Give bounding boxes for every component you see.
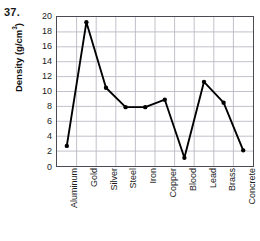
y-tick-label: 18 <box>30 26 52 35</box>
y-tick-label: 0 <box>30 162 52 171</box>
y-axis-tick-labels: 20181614121086420 <box>30 15 52 167</box>
data-point-marker <box>221 101 225 105</box>
x-tick-label: Lead <box>209 168 218 188</box>
data-point-marker <box>182 156 186 160</box>
x-tick-label: Concrete <box>248 168 257 205</box>
y-axis-title-text: Density (g/cm <box>13 30 24 92</box>
data-point-marker <box>241 148 245 152</box>
plot-area <box>56 16 254 167</box>
x-tick-label: Aluminum <box>70 168 79 208</box>
data-point-marker <box>84 20 88 24</box>
y-tick-label: 2 <box>30 147 52 156</box>
data-point-marker <box>104 86 108 90</box>
x-tick-label: Silver <box>110 168 119 191</box>
y-tick-label: 20 <box>30 11 52 20</box>
y-tick-label: 16 <box>30 41 52 50</box>
x-tick-label: Gold <box>90 168 99 187</box>
y-tick-label: 12 <box>30 71 52 80</box>
x-tick-label: Copper <box>169 168 178 198</box>
chart-figure: 37. Density (g/cm3) 20181614121086420 Al… <box>0 0 260 241</box>
y-tick-label: 8 <box>30 102 52 111</box>
y-tick-label: 4 <box>30 132 52 141</box>
data-point-marker <box>123 105 127 109</box>
x-tick-label: Iron <box>149 168 158 184</box>
y-tick-label: 10 <box>30 87 52 96</box>
y-axis-title-tail: ) <box>13 23 24 26</box>
data-point-marker <box>65 144 69 148</box>
y-axis-title: Density (g/cm3) <box>13 0 24 117</box>
y-tick-label: 14 <box>30 56 52 65</box>
data-point-marker <box>143 105 147 109</box>
x-tick-label: Brass <box>228 168 237 191</box>
x-axis-tick-labels: AluminumGoldSilverSteelIronCopperBloodLe… <box>56 168 254 240</box>
data-point-marker <box>202 80 206 84</box>
y-tick-label: 6 <box>30 117 52 126</box>
density-line <box>67 22 243 158</box>
y-axis-title-exponent: 3 <box>11 26 18 30</box>
data-point-marker <box>163 98 167 102</box>
x-tick-label: Blood <box>189 168 198 191</box>
x-tick-label: Steel <box>129 168 138 189</box>
density-series <box>57 17 253 166</box>
